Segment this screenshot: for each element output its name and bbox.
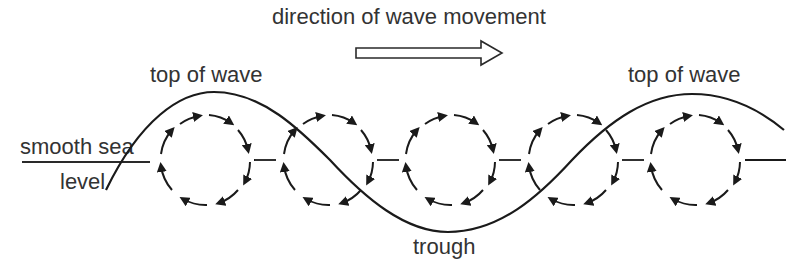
wave-profile-line bbox=[106, 92, 784, 232]
direction-arrow-icon bbox=[356, 41, 502, 65]
wave-diagram bbox=[0, 0, 806, 268]
orbit-circles bbox=[161, 115, 740, 205]
orbit-1 bbox=[161, 115, 250, 205]
orbit-5 bbox=[651, 115, 740, 205]
orbit-3 bbox=[406, 115, 495, 205]
